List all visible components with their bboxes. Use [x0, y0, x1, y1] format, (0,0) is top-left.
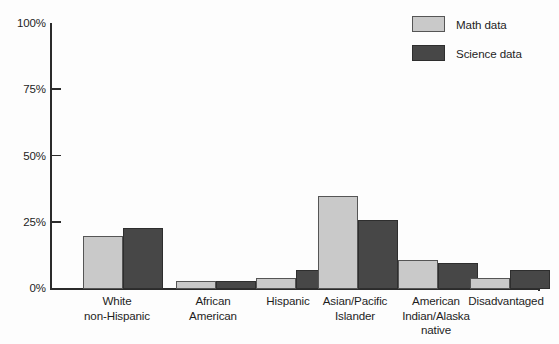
bar-science: [510, 270, 550, 289]
legend-item-science: Science data: [412, 45, 552, 61]
y-tick-25: [52, 221, 61, 223]
bar-math: [176, 281, 216, 289]
bar-math: [470, 278, 510, 289]
bar-math: [256, 278, 296, 289]
bar-math: [398, 260, 438, 289]
y-axis-label-50: 50%: [2, 150, 46, 162]
category-label-line: American: [163, 309, 263, 324]
y-axis-label-100: 100%: [2, 17, 46, 29]
bar-science: [123, 228, 163, 289]
category-label-line: non-Hispanic: [61, 309, 173, 324]
bar-group: [318, 23, 398, 289]
legend-swatch-math-icon: [412, 16, 445, 32]
y-axis-label-75: 75%: [2, 83, 46, 95]
bar-group: [176, 23, 256, 289]
y-axis-label-0: 0%: [2, 282, 46, 294]
bar-group: [83, 23, 163, 289]
category-label: Disadvantaged: [453, 294, 559, 309]
bar-chart-plot: 100%75%50%25%0% Whitenon-HispanicAfrican…: [0, 0, 559, 344]
bar-science: [358, 220, 398, 289]
chart-page: 100%75%50%25%0% Whitenon-HispanicAfrican…: [0, 0, 559, 344]
bar-math: [83, 236, 123, 289]
category-label-line: Disadvantaged: [453, 294, 559, 309]
legend-item-math: Math data: [412, 16, 552, 32]
y-axis-label-25: 25%: [2, 216, 46, 228]
bar-math: [318, 196, 358, 289]
legend-swatch-science-icon: [412, 45, 445, 61]
legend-label-math: Math data: [456, 18, 507, 31]
legend-label-science: Science data: [456, 47, 522, 60]
category-label: Whitenon-Hispanic: [61, 294, 173, 323]
bar-science: [216, 281, 256, 289]
category-label-line: native: [380, 323, 492, 338]
category-label-line: Indian/Alaska: [380, 309, 492, 324]
y-tick-75: [52, 88, 61, 90]
y-tick-50: [52, 155, 61, 157]
category-label-line: White: [61, 294, 173, 309]
chart-legend: Math data Science data: [412, 16, 552, 74]
